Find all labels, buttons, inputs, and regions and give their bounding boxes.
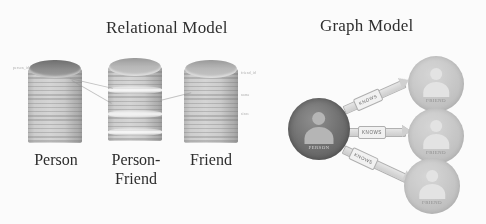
cylinder-top-disc [29,60,81,78]
relational-table-person-friend [108,58,162,146]
record-band [108,128,162,136]
edge-label-knows: KNOWS [358,126,386,139]
graph-node-friend-2: FRIEND [408,108,464,164]
avatar-torso [419,184,445,199]
attribute-annotation: name [241,93,250,97]
avatar-head [430,68,442,80]
person-avatar-icon [305,112,334,144]
graph-node-friend-1: FRIEND [408,56,464,112]
record-band [108,86,162,94]
cylinder-body [184,69,238,143]
record-band [108,110,162,118]
relational-model-title: Relational Model [106,18,228,38]
person-avatar-icon [423,120,449,149]
avatar-head [426,170,438,182]
graph-node-label: FRIEND [408,98,464,103]
avatar-head [430,120,442,132]
graph-edge-knows-1: KNOWS [342,74,414,114]
edge-label-knows: KNOWS [348,147,379,171]
cylinder-top-disc [109,58,161,76]
graph-node-label: PERSON [288,145,350,150]
graph-node-label: FRIEND [404,200,460,205]
graph-node-friend-3: FRIEND [404,158,460,214]
relational-table-friend [184,60,238,148]
attribute-annotation: since [241,112,249,116]
graph-model-title: Graph Model [320,16,413,36]
avatar-torso [423,134,449,149]
graph-edge-knows-2: KNOWS [348,126,414,137]
attribute-annotation: person_id [13,66,29,70]
edge-label-knows: KNOWS [353,88,384,111]
avatar-torso [423,82,449,97]
model-comparison-figure: Relational Model person_id friend_id nam… [0,0,486,224]
avatar-torso [305,127,334,144]
relational-table-person [28,60,82,148]
attribute-annotation: friend_id [241,71,256,75]
avatar-head [312,112,325,125]
cylinder-top-disc [185,60,237,78]
table-caption-friend: Friend [168,150,254,169]
person-avatar-icon [423,68,449,97]
graph-node-person: PERSON [288,98,350,160]
graph-node-label: FRIEND [408,150,464,155]
table-caption-person: Person [10,150,102,169]
person-avatar-icon [419,170,445,199]
